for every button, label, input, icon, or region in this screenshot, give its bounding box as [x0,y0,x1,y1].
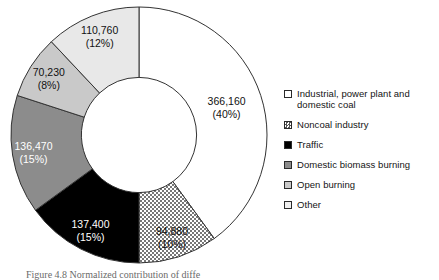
legend-item[interactable]: Noncoal industry [284,119,436,130]
slice-value-label: 366,160 [208,95,246,107]
slice-value-label: 137,400 [72,218,110,230]
legend-item[interactable]: Domestic biomass burning [284,159,436,170]
stipple-swatch [284,121,292,129]
slice-value-label: 70,230 [33,66,65,78]
very-light-gray-swatch [284,201,292,209]
legend-item-label: Noncoal industry [297,119,369,130]
light-gray-swatch [284,181,292,189]
figure-caption: Figure 4.8 Normalized contribution of di… [26,269,200,280]
legend-item-label: Traffic [297,139,323,150]
donut-chart: 366,160(40%)94,880(10%)137,400(15%)136,4… [8,4,270,266]
chart-legend: Industrial, power plant anddomestic coal… [284,88,436,210]
black-swatch [284,141,292,149]
legend-item-label: Industrial, power plant anddomestic coal [297,88,410,110]
donut-slices [11,7,267,263]
dark-gray-swatch [284,161,292,169]
slice-percent-label: (12%) [86,37,114,49]
slice-percent-label: (8%) [38,79,60,91]
slice-percent-label: (15%) [19,153,47,165]
legend-item[interactable]: Traffic [284,139,436,150]
slice-percent-label: (40%) [213,108,241,120]
slice-value-label: 94,880 [156,225,188,237]
donut-chart-svg: 366,160(40%)94,880(10%)137,400(15%)136,4… [8,4,270,266]
legend-item[interactable]: Open burning [284,179,436,190]
slice-percent-label: (15%) [76,231,104,243]
legend-item-label: Domestic biomass burning [297,159,410,170]
legend-item-label: Other [297,199,321,210]
slice-value-label: 110,760 [81,24,118,36]
legend-item-label: Open burning [297,179,355,190]
slice-value-label: 136,470 [15,140,53,152]
white-swatch [284,90,292,98]
legend-item[interactable]: Other [284,199,436,210]
legend-item-label-line2: domestic coal [297,99,356,110]
slice-percent-label: (10%) [158,238,186,250]
legend-item[interactable]: Industrial, power plant anddomestic coal [284,88,436,110]
